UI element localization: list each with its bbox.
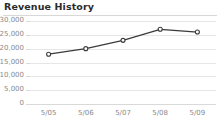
data-point-marker bbox=[121, 38, 125, 42]
y-axis-tick-label: 25,000 bbox=[0, 31, 24, 38]
x-axis-tick-label: 5/07 bbox=[103, 109, 143, 117]
y-axis-tick-label: 0 bbox=[0, 100, 24, 107]
revenue-line-series bbox=[30, 21, 216, 104]
y-axis-tick-label: 30,000 bbox=[0, 17, 24, 24]
data-point-marker bbox=[84, 47, 88, 51]
y-axis-tick-label: 5,000 bbox=[0, 86, 24, 93]
y-axis-tick-label: 10,000 bbox=[0, 72, 24, 79]
gridline bbox=[30, 104, 216, 105]
header-divider bbox=[3, 15, 217, 16]
y-axis-tick-mark bbox=[26, 104, 30, 105]
data-point-marker bbox=[47, 52, 51, 56]
page-title: Revenue History bbox=[4, 1, 94, 13]
x-axis-tick-label: 5/05 bbox=[29, 109, 69, 117]
x-axis-tick-label: 5/08 bbox=[140, 109, 180, 117]
series-markers bbox=[47, 27, 200, 56]
x-axis-tick-label: 5/09 bbox=[177, 109, 217, 117]
chart-plot-area: 05,00010,00015,00020,00025,00030,000 5/0… bbox=[30, 21, 216, 104]
y-axis-tick-label: 20,000 bbox=[0, 45, 24, 52]
chart-header: Revenue History bbox=[0, 0, 220, 17]
data-point-marker bbox=[158, 27, 162, 31]
revenue-history-chart-widget: Revenue History 05,00010,00015,00020,000… bbox=[0, 0, 220, 121]
x-axis-tick-label: 5/06 bbox=[66, 109, 106, 117]
y-axis-tick-label: 15,000 bbox=[0, 59, 24, 66]
data-point-marker bbox=[195, 30, 199, 34]
